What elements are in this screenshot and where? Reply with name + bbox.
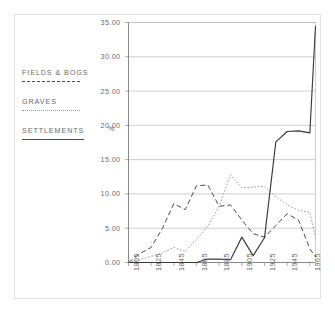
y-tick-label: 15.00 [91, 155, 121, 164]
figure-root: FIELDS & BOGS GRAVES SETTLEMENTS % 0.005… [0, 0, 335, 314]
x-tick-label: 1825 [154, 253, 163, 271]
x-tick-label: 1845 [177, 253, 186, 271]
series-line-settlements [129, 26, 316, 263]
series-line-fields-bogs [129, 185, 316, 262]
y-tick-label: 25.00 [91, 87, 121, 96]
x-tick-label: 1805 [132, 253, 141, 271]
series-line-graves [129, 175, 316, 263]
y-tick-label: 0.00 [91, 258, 121, 267]
x-tick-label: 1865 [200, 253, 209, 271]
y-tick-label: 20.00 [91, 121, 121, 130]
y-tick-label: 10.00 [91, 189, 121, 198]
plot-area: 0.005.0010.0015.0020.0025.0030.0035.00 1… [0, 0, 335, 314]
series-lines [129, 26, 316, 263]
x-tick-label: 1885 [222, 253, 231, 271]
x-tick-label: 1905 [245, 253, 254, 271]
y-axis-tick-marks [125, 23, 129, 263]
chart-canvas [0, 0, 335, 314]
y-tick-label: 5.00 [91, 224, 121, 233]
axis-lines [129, 23, 316, 263]
y-tick-label: 30.00 [91, 52, 121, 61]
y-tick-label: 35.00 [91, 18, 121, 27]
x-tick-label: 1965 [313, 253, 322, 271]
x-tick-label: 1925 [268, 253, 277, 271]
x-tick-label: 1945 [290, 253, 299, 271]
